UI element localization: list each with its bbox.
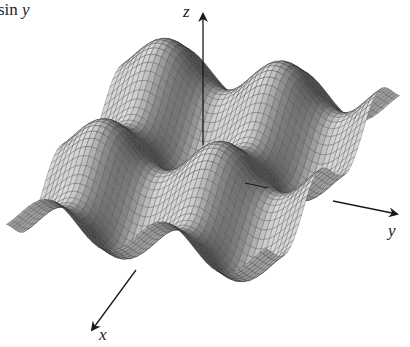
x-axis [92,270,136,330]
y-axis [333,201,397,214]
z-axis-label: z [183,3,190,20]
x-axis-label: x [99,326,107,343]
y-axis-label: y [388,222,396,239]
surface-plot [0,0,410,347]
